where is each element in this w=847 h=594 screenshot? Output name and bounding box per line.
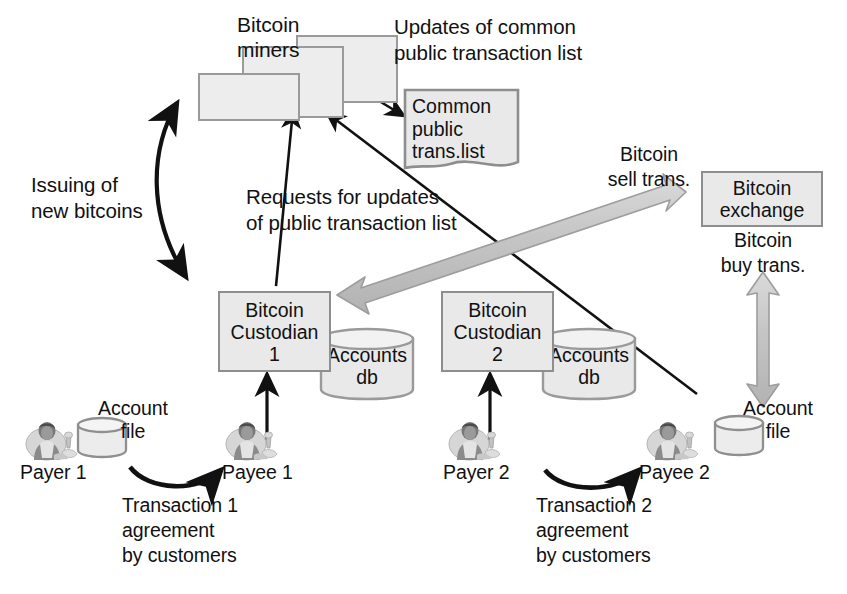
- common-public-trans-list-node: Common public trans.list: [403, 88, 520, 172]
- person-icon: [447, 414, 505, 462]
- person-icon: [24, 414, 82, 462]
- bitcoin-custodian-1-node: Bitcoin Custodian 1: [218, 291, 331, 372]
- bitcoin-buy-trans-label: Bitcoin buy trans.: [700, 228, 826, 278]
- payee-2-label: Payee 2: [639, 461, 710, 484]
- issuing-new-bitcoins-label: Issuing of new bitcoins: [31, 172, 143, 224]
- bitcoin-custodian-2-node: Bitcoin Custodian 2: [441, 291, 554, 372]
- payee-1-label: Payee 1: [222, 461, 293, 484]
- transaction-2-label: Transaction 2 agreement by customers: [536, 493, 652, 568]
- payer-2-person-icon: [447, 414, 505, 462]
- miners-label: Bitcoin miners: [237, 12, 299, 62]
- common-public-trans-list-label: Common public trans.list: [412, 95, 491, 163]
- payer-2-label: Payer 2: [443, 461, 510, 484]
- person-icon: [645, 414, 703, 462]
- payee-1-person-icon: [224, 414, 282, 462]
- transaction-1-label: Transaction 1 agreement by customers: [122, 493, 238, 568]
- edge-payer1-to-payee1: [130, 467, 221, 486]
- person-icon: [224, 414, 282, 462]
- miner-box-front: [198, 73, 300, 121]
- edge-issuing-new-bitcoins: [157, 103, 186, 277]
- account-file-2-label: Account file: [718, 397, 838, 443]
- payee-2-person-icon: [645, 414, 703, 462]
- updates-of-common-label: Updates of common public transaction lis…: [394, 14, 582, 66]
- requests-for-updates-label: Requests for updates of public transacti…: [246, 184, 456, 236]
- bitcoin-exchange-node: Bitcoin exchange: [701, 171, 823, 227]
- payer-1-person-icon: [24, 414, 82, 462]
- accounts-db-1-label: Accounts db: [319, 344, 415, 388]
- payer-1-label: Payer 1: [20, 461, 87, 484]
- edge-account-file2-to-exchange: [747, 272, 779, 407]
- accounts-db-2-label: Accounts db: [541, 344, 637, 388]
- edge-payer2-to-payee2: [545, 470, 639, 488]
- accounts-db-2-node: Accounts db: [541, 327, 637, 401]
- bitcoin-ecosystem-diagram: Bitcoin miners Common public trans.list …: [0, 0, 847, 594]
- bitcoin-sell-trans-label: Bitcoin sell trans.: [590, 142, 708, 192]
- account-file-1-label: Account file: [78, 397, 188, 443]
- accounts-db-1-node: Accounts db: [319, 327, 415, 401]
